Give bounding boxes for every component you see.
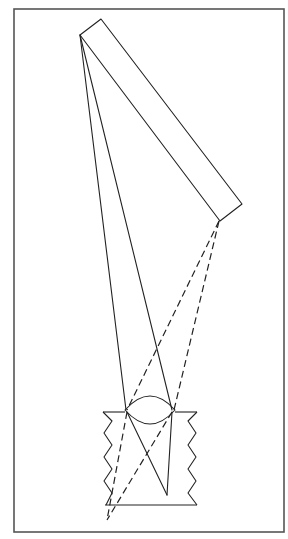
object-rectangle (80, 19, 242, 221)
biconvex-lens (125, 396, 175, 424)
solid-ray-right (80, 35, 172, 410)
diagram-frame (14, 9, 284, 532)
solid-refracted-right (167, 412, 172, 495)
left-jagged-wall (103, 412, 112, 505)
solid-ray-left (80, 35, 126, 410)
optics-diagram (0, 0, 288, 539)
right-jagged-wall (188, 412, 197, 505)
dashed-refracted-right (107, 412, 172, 520)
dashed-ray-right (174, 221, 219, 410)
dashed-ray-left (127, 221, 219, 410)
